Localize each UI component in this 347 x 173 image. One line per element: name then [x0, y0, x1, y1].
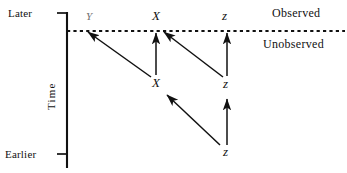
- node-label-y-observed: Y: [86, 11, 92, 22]
- arrow-zmid-to-xobs: [164, 32, 223, 77]
- region-label-observed: Observed: [272, 7, 320, 19]
- node-label-z-lower: z: [223, 145, 228, 158]
- figure-canvas: Later Earlier Time Observed Unobserved Y…: [0, 0, 347, 173]
- axis-title-time: Time: [46, 82, 57, 110]
- node-label-z-middle: z: [223, 77, 228, 90]
- axis-label-later: Later: [8, 8, 32, 19]
- arrow-xmid-to-yobs: [88, 32, 151, 77]
- node-label-z-observed: z: [222, 9, 227, 22]
- arrow-zlow-to-xmid: [167, 95, 220, 145]
- node-label-x-observed: X: [152, 9, 160, 22]
- region-label-unobserved: Unobserved: [263, 38, 324, 50]
- node-label-x-middle: X: [152, 76, 160, 89]
- axis-label-earlier: Earlier: [5, 149, 36, 160]
